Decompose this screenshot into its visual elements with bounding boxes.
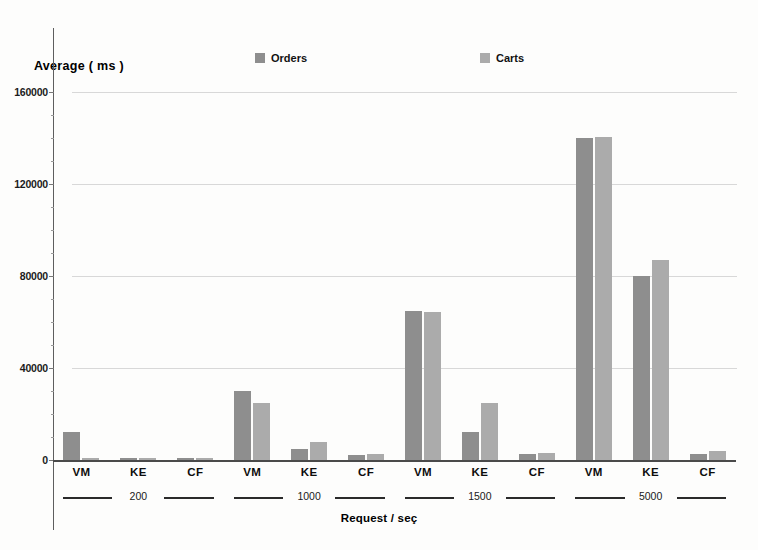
x-axis-title: Request / seç — [0, 512, 758, 524]
bars-layer — [53, 28, 736, 460]
bar — [310, 442, 327, 460]
bar — [709, 451, 726, 460]
x-axis-category-label: CF — [346, 466, 386, 478]
x-axis-category-label: VM — [574, 466, 614, 478]
group-rule-right — [506, 497, 555, 499]
group-rule-right — [677, 497, 726, 499]
x-axis-category-label: KE — [631, 466, 671, 478]
x-axis-group-label: 1500 — [455, 490, 505, 502]
group-rule-right — [335, 497, 384, 499]
bar — [405, 311, 422, 461]
x-axis-category-label: VM — [403, 466, 443, 478]
x-axis-group-label: 1000 — [284, 490, 334, 502]
x-axis-group-label: 200 — [113, 490, 163, 502]
group-rule-right — [164, 497, 213, 499]
bar — [576, 138, 593, 460]
x-axis-group-label: 5000 — [626, 490, 676, 502]
y-axis-tick-label: 0 — [0, 454, 48, 466]
x-axis-category-label: CF — [688, 466, 728, 478]
group-rule-left — [575, 497, 624, 499]
bar — [234, 391, 251, 460]
x-axis-category-label: VM — [61, 466, 101, 478]
x-axis-category-label: KE — [289, 466, 329, 478]
y-axis-tick-label: 80000 — [0, 270, 48, 282]
x-axis-category-label: CF — [175, 466, 215, 478]
bar — [63, 432, 80, 460]
y-axis-tick-label: 120000 — [0, 178, 48, 190]
bar — [481, 403, 498, 461]
x-axis-category-label: CF — [517, 466, 557, 478]
x-axis-line — [53, 460, 736, 462]
bar — [424, 312, 441, 460]
x-axis-category-label: VM — [232, 466, 272, 478]
bar — [253, 403, 270, 461]
bar — [291, 449, 308, 461]
bar — [462, 432, 479, 460]
group-rule-left — [234, 497, 283, 499]
bar — [652, 260, 669, 460]
y-axis-tick-label: 40000 — [0, 362, 48, 374]
x-axis-category-label: KE — [460, 466, 500, 478]
bar — [633, 276, 650, 460]
group-rule-left — [405, 497, 454, 499]
group-rule-left — [63, 497, 112, 499]
chart-canvas: Average ( ms ) OrdersCarts 0400008000012… — [0, 0, 758, 550]
x-axis-category-label: KE — [118, 466, 158, 478]
bar — [595, 137, 612, 460]
bar — [538, 453, 555, 460]
y-axis-tick-label: 160000 — [0, 86, 48, 98]
